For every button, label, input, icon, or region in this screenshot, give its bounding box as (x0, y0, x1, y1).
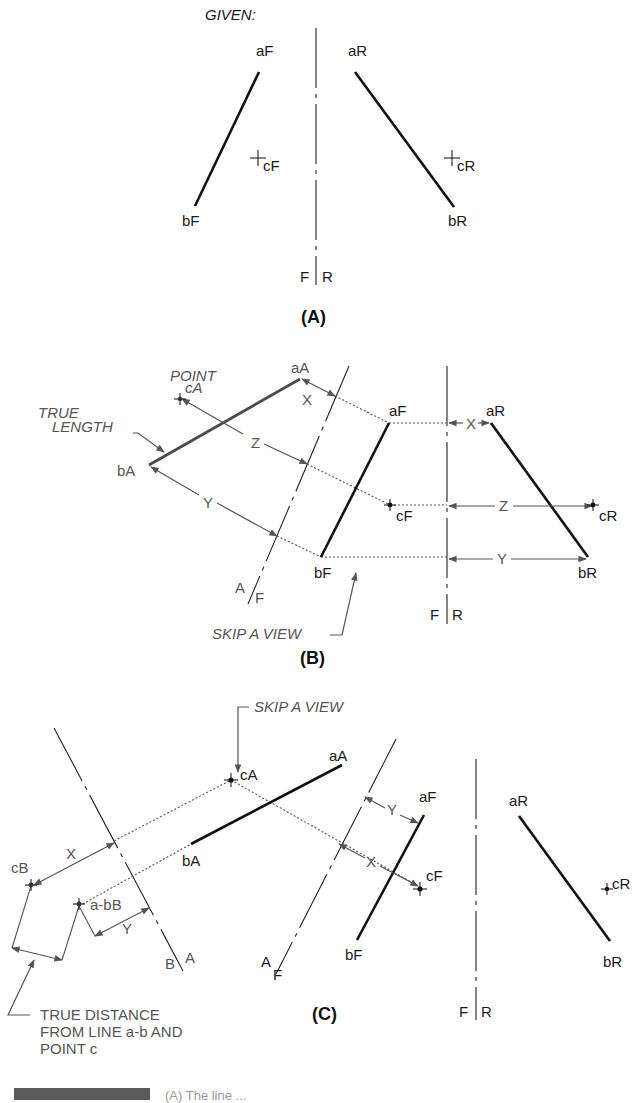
label-cF-c: cF (426, 867, 443, 884)
fold-line-a-f-c (276, 739, 396, 974)
line-ab-aux-c (191, 765, 342, 844)
panel-a: GIVEN: aF aR cF cR bF bR F R (A) (182, 6, 476, 327)
figure-caption-fragment: (A) The line ... (165, 1088, 246, 1103)
dim-y-front-c: Y (387, 801, 397, 818)
fold-label-R-right-b: R (452, 606, 463, 623)
fold-label-F-front-c: F (273, 966, 282, 983)
dim-x-aux-c: X (66, 845, 76, 862)
label-cR-b: cR (599, 507, 618, 524)
fold-label-R: R (322, 268, 333, 285)
fold-label-F: F (300, 268, 309, 285)
label-cB: cB (11, 859, 29, 876)
label-bR: bR (448, 212, 467, 229)
line-ab-front-c (357, 815, 424, 940)
label-bF: bF (182, 212, 200, 229)
fold-label-R-right-c: R (481, 1003, 492, 1020)
dim-x-front-c: X (366, 853, 376, 870)
point-cA-marker-c (224, 773, 238, 787)
caption-c: (C) (312, 1004, 337, 1024)
label-aA-c: aA (329, 747, 347, 764)
label-aR-c: aR (509, 792, 528, 809)
label-abB: a-bB (90, 896, 122, 913)
label-bF-c: bF (345, 946, 363, 963)
fold-label-A-b: A (235, 579, 245, 596)
label-aF-b: aF (389, 402, 407, 419)
true-length-label-2: LENGTH (52, 418, 113, 435)
label-bF-b: bF (314, 564, 332, 581)
dim-y-aux-c: Y (122, 920, 132, 937)
label-cR: cR (457, 157, 476, 174)
caption-b: (B) (300, 648, 325, 668)
true-length-line (149, 379, 300, 465)
dim-x-aux-b: X (302, 391, 312, 408)
figure-label-bar (14, 1088, 150, 1100)
caption-a: (A) (301, 307, 326, 327)
dim-z-right-b: Z (499, 497, 508, 514)
label-cF-b: cF (396, 507, 413, 524)
given-label: GIVEN: (205, 6, 256, 23)
skip-a-view-label-c: SKIP A VIEW (254, 698, 345, 715)
point-cF-marker-b (384, 499, 396, 511)
label-aF: aF (256, 42, 274, 59)
true-distance-label-2: FROM LINE a-b AND (40, 1023, 183, 1040)
label-aA-b: aA (291, 359, 309, 376)
label-bA-c: bA (182, 852, 200, 869)
dim-y-aux-b: Y (203, 494, 213, 511)
fold-label-A-c: A (185, 949, 195, 966)
label-aF-c: aF (419, 788, 437, 805)
label-aR-b: aR (486, 402, 505, 419)
fold-label-B-c: B (165, 955, 175, 972)
fold-label-F-right-b: F (430, 606, 439, 623)
line-ab-right (355, 72, 454, 207)
fold-label-A-front-c: A (261, 953, 271, 970)
fold-label-F-b: F (255, 589, 264, 606)
point-cB-marker (25, 879, 37, 891)
line-ab-front (195, 72, 259, 206)
panel-c: SKIP A VIEW (8, 698, 631, 1057)
true-distance-label-1: TRUE DISTANCE (40, 1006, 160, 1023)
label-bA-b: bA (117, 462, 135, 479)
point-cR-marker-b (587, 499, 599, 511)
line-ab-right-c (519, 816, 610, 941)
point-abB-marker (73, 898, 85, 910)
line-ab-front-b (321, 423, 389, 557)
label-bR-b: bR (578, 564, 597, 581)
dim-y-right-b: Y (497, 550, 507, 567)
dim-z-aux-b: Z (251, 434, 260, 451)
fold-label-F-right-c: F (459, 1003, 468, 1020)
label-cR-c: cR (612, 875, 631, 892)
panel-b: POINT cA TRUE LENGTH aA bA X Z Y aF aR X… (38, 359, 618, 668)
line-ab-right-b (491, 423, 588, 557)
label-bR-c: bR (603, 953, 622, 970)
true-distance-label-3: POINT c (40, 1040, 98, 1057)
dim-x-right-b: X (466, 415, 476, 432)
label-aR: aR (348, 42, 367, 59)
fold-line-a-f (248, 366, 349, 604)
label-cA-c: cA (240, 766, 258, 783)
label-cA-b: cA (185, 379, 203, 396)
skip-a-view-label-b: SKIP A VIEW (212, 625, 303, 642)
label-cF: cF (263, 157, 280, 174)
